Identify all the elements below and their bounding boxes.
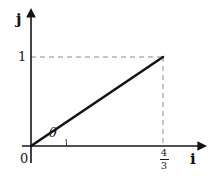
coordinate-figure: j i 1 0 θ 4 3 — [0, 0, 210, 177]
x-tick-label-four-thirds: 4 3 — [157, 148, 171, 171]
figure-canvas — [0, 0, 210, 177]
y-axis-label: j — [16, 12, 21, 27]
x-axis-label: i — [190, 152, 196, 167]
fraction-denominator: 3 — [157, 161, 171, 171]
angle-theta-label: θ — [49, 126, 57, 139]
fraction-numerator: 4 — [157, 148, 171, 158]
angle-arc — [66, 139, 67, 146]
origin-label: 0 — [20, 152, 28, 165]
y-tick-label-1: 1 — [18, 50, 26, 63]
